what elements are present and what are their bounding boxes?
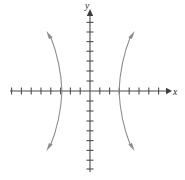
- y-axis-label: y: [84, 1, 90, 11]
- curve-arrowhead-down-right: [128, 143, 134, 151]
- x-axis-arrowhead: [166, 88, 172, 94]
- curve-right-branch-lower: [119, 91, 131, 146]
- x-axis-label: x: [172, 87, 178, 97]
- hyperbola-figure: x y: [0, 0, 185, 180]
- graph-canvas: x y: [0, 0, 185, 180]
- curve-left-branch-upper: [51, 37, 63, 92]
- curve-arrowhead-up-right: [128, 31, 134, 39]
- curve-arrowhead-up-left: [46, 31, 52, 39]
- curve-arrowhead-down-left: [46, 143, 52, 151]
- curve-right-branch-upper: [119, 37, 131, 92]
- axes-group: [10, 9, 172, 172]
- curve-left-branch-lower: [51, 91, 63, 146]
